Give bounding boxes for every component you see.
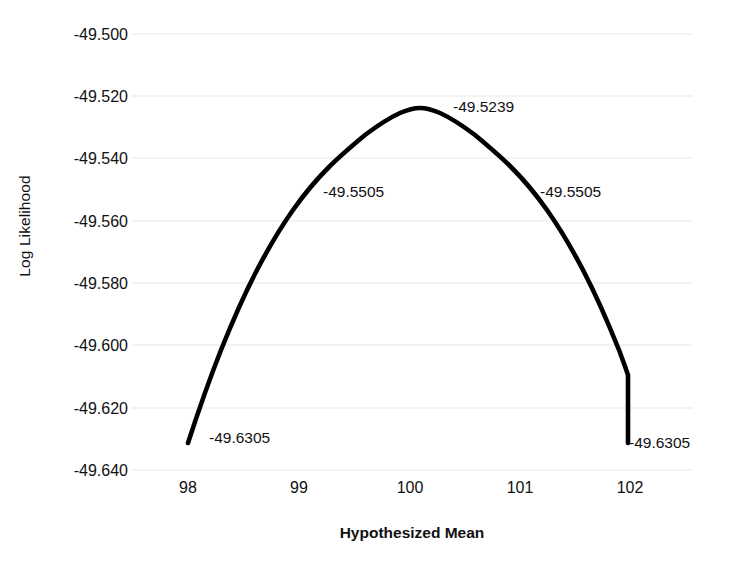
data-label-right-end: -49.6305 [629, 435, 690, 451]
x-tick-label: 101 [480, 480, 560, 496]
data-label-left-end: -49.6305 [209, 430, 270, 446]
data-label-peak: -49.5239 [453, 99, 514, 115]
gridlines [132, 34, 692, 470]
x-axis-title: Hypothesized Mean [132, 524, 692, 542]
x-tick-label: 102 [590, 480, 670, 496]
y-axis-title: Log Likelihood [16, 126, 34, 326]
data-label-left-mid: -49.5505 [323, 184, 384, 200]
x-tick-label: 100 [370, 480, 450, 496]
y-tick-label: -49.520 [4, 89, 128, 105]
x-tick-label: 98 [148, 480, 228, 496]
y-tick-label: -49.640 [4, 463, 128, 479]
log-likelihood-chart: -49.500 -49.520 -49.540 -49.560 -49.580 … [0, 0, 730, 573]
y-tick-label: -49.500 [4, 27, 128, 43]
x-tick-label: 99 [259, 480, 339, 496]
y-tick-label: -49.600 [4, 338, 128, 354]
data-label-right-mid: -49.5505 [540, 184, 601, 200]
y-tick-label: -49.620 [4, 401, 128, 417]
